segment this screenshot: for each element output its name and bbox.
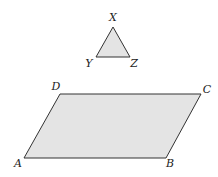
vertex-label-a: A	[13, 157, 22, 170]
parallelogram-abcd	[24, 94, 201, 158]
vertex-label-y: Y	[85, 57, 94, 70]
vertex-label-x: X	[108, 11, 118, 24]
vertex-label-b: B	[165, 157, 174, 170]
geometry-figure: X Y Z A B C D	[0, 0, 218, 177]
triangle-xyz	[96, 27, 130, 57]
vertex-label-c: C	[203, 83, 212, 96]
vertex-label-z: Z	[129, 57, 138, 70]
vertex-label-d: D	[51, 80, 61, 93]
